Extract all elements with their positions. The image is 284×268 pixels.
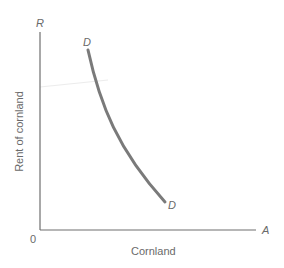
origin-label: 0 <box>30 234 36 245</box>
x-axis-title: Cornland <box>131 246 176 257</box>
curve-label-top: D <box>83 37 91 48</box>
y-axis-title: Rent of cornland <box>14 87 25 177</box>
demand-curve <box>88 50 165 202</box>
y-axis-symbol: R <box>36 18 44 29</box>
chart-canvas <box>0 0 284 268</box>
x-axis-symbol: A <box>262 225 269 236</box>
curve-label-bottom: D <box>168 200 176 211</box>
